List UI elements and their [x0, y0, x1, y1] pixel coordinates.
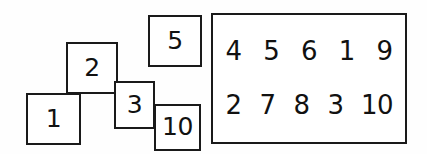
group-cell: 3: [327, 92, 344, 118]
number-tile-3[interactable]: 3: [114, 81, 155, 129]
group-box-bottom-row: 2 7 8 3 10: [225, 92, 393, 118]
group-cell: 6: [301, 38, 318, 64]
group-cell: 1: [338, 38, 355, 64]
group-cell: 9: [376, 38, 393, 64]
group-cell: 5: [263, 38, 280, 64]
number-tile-label: 1: [46, 106, 61, 131]
number-tile-2[interactable]: 2: [66, 42, 118, 94]
number-tile-label: 10: [162, 114, 193, 139]
number-tile-label: 5: [167, 28, 182, 53]
group-cell: 8: [293, 92, 310, 118]
number-tile-10[interactable]: 10: [154, 104, 201, 151]
group-cell: 10: [361, 92, 393, 118]
number-tile-1[interactable]: 1: [26, 93, 81, 145]
number-tile-label: 3: [127, 92, 142, 117]
group-box-top-row: 4 5 6 1 9: [225, 38, 393, 64]
diagram-canvas: 1 2 3 10 5 4 5 6 1 9 2 7 8 3 10: [0, 0, 427, 154]
group-box: 4 5 6 1 9 2 7 8 3 10: [211, 13, 407, 144]
group-cell: 7: [259, 92, 276, 118]
number-tile-5[interactable]: 5: [148, 15, 202, 67]
group-cell: 2: [225, 92, 242, 118]
number-tile-label: 2: [84, 55, 99, 80]
group-cell: 4: [225, 38, 242, 64]
